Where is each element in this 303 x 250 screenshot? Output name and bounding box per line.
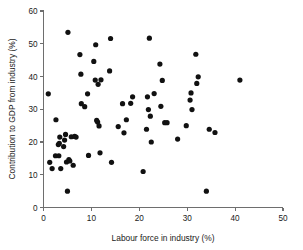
data-point	[77, 52, 82, 57]
data-point	[63, 132, 68, 137]
data-point	[175, 136, 180, 141]
x-tick-label: 20	[135, 214, 145, 223]
data-point	[160, 78, 165, 83]
plot-canvas: 0102030405060 01020304050 Labour force i…	[0, 0, 303, 250]
data-point	[212, 130, 217, 135]
x-axis-ticks: 01020304050	[41, 208, 288, 223]
data-point	[130, 94, 135, 99]
y-tick-label: 40	[28, 73, 38, 82]
data-point	[46, 91, 51, 96]
data-point	[82, 104, 87, 109]
y-tick-label: 50	[28, 40, 38, 49]
data-point	[148, 114, 153, 119]
data-point	[109, 160, 114, 165]
data-point	[62, 137, 67, 142]
data-point	[147, 36, 152, 41]
data-point	[57, 141, 62, 146]
data-point	[121, 130, 126, 135]
data-point	[93, 42, 98, 47]
data-point	[108, 36, 113, 41]
data-point	[53, 117, 58, 122]
data-point	[67, 158, 72, 163]
data-point	[73, 134, 78, 139]
y-tick-label: 10	[28, 171, 38, 180]
data-point	[164, 120, 169, 125]
data-point	[193, 52, 198, 57]
data-point	[56, 153, 61, 158]
data-point	[189, 107, 194, 112]
x-tick-label: 50	[278, 214, 288, 223]
data-point	[146, 107, 151, 112]
data-point	[50, 166, 55, 171]
data-point	[152, 91, 157, 96]
data-point	[57, 134, 62, 139]
x-tick-label: 10	[87, 214, 97, 223]
data-point	[158, 104, 163, 109]
data-point	[194, 81, 199, 86]
y-tick-label: 0	[33, 204, 38, 213]
data-points-layer	[46, 30, 243, 194]
x-axis-title: Labour force in industry (%)	[112, 233, 215, 243]
y-tick-label: 60	[28, 7, 38, 16]
y-tick-label: 30	[28, 105, 38, 114]
data-point	[204, 189, 209, 194]
data-point	[47, 160, 52, 165]
data-point	[93, 78, 98, 83]
data-point	[61, 144, 66, 149]
data-point	[85, 91, 90, 96]
data-point	[91, 59, 96, 64]
x-tick-label: 30	[183, 214, 193, 223]
data-point	[207, 127, 212, 132]
data-point	[78, 72, 83, 77]
y-axis-title: Contribution to GDP from industry (%)	[7, 38, 17, 179]
data-point	[145, 94, 150, 99]
data-point	[120, 101, 125, 106]
x-tick-label: 40	[231, 214, 241, 223]
data-point	[116, 124, 121, 129]
x-tick-label: 0	[41, 214, 46, 223]
data-point	[188, 90, 193, 95]
y-tick-label: 20	[28, 138, 38, 147]
data-point	[157, 61, 162, 66]
data-point	[196, 74, 201, 79]
data-point	[96, 82, 101, 87]
y-axis-ticks: 0102030405060	[28, 7, 43, 213]
axes-group	[44, 11, 284, 208]
data-point	[96, 123, 101, 128]
scatter-plot-figure: 0102030405060 01020304050 Labour force i…	[0, 0, 303, 250]
data-point	[187, 97, 192, 102]
data-point	[149, 139, 154, 144]
data-point	[98, 77, 103, 82]
data-point	[128, 101, 133, 106]
data-point	[58, 166, 63, 171]
data-point	[65, 30, 70, 35]
data-point	[97, 150, 102, 155]
data-point	[184, 123, 189, 128]
data-point	[65, 189, 70, 194]
data-point	[237, 78, 242, 83]
data-point	[124, 117, 129, 122]
data-point	[144, 127, 149, 132]
data-point	[107, 68, 112, 73]
data-point	[141, 169, 146, 174]
data-point	[71, 163, 76, 168]
data-point	[86, 153, 91, 158]
